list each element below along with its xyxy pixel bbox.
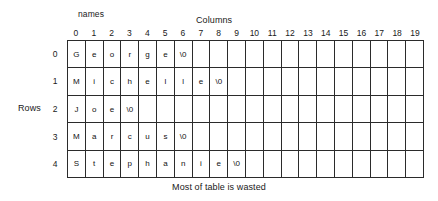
column-index-15: 15 [335, 27, 353, 39]
column-index-1: 1 [85, 27, 103, 39]
grid-cell-empty [210, 123, 228, 149]
column-index-19: 19 [406, 27, 424, 39]
grid-cell-char: e [157, 41, 175, 67]
grid-cell-empty [406, 41, 424, 67]
grid-cell-char: l [175, 68, 193, 94]
grid-cell-empty [406, 123, 424, 149]
column-index-16: 16 [353, 27, 371, 39]
column-index-10: 10 [245, 27, 263, 39]
grid-cell-empty [210, 41, 228, 67]
grid-cell-char: \0 [175, 123, 193, 149]
grid-cell-empty [353, 151, 371, 177]
grid-cell-char: t [86, 151, 104, 177]
grid-cell-char: c [121, 123, 139, 149]
grid-cell-empty [246, 151, 264, 177]
grid-cell-empty [388, 41, 406, 67]
column-index-8: 8 [210, 27, 228, 39]
grid-cell-char: p [121, 151, 139, 177]
grid-cell-empty [335, 123, 353, 149]
character-grid: George\0Michelle\0Joe\0Marcus\0Stephanie… [67, 40, 424, 178]
column-index-14: 14 [317, 27, 335, 39]
grid-cell-empty [406, 96, 424, 122]
column-index-4: 4 [138, 27, 156, 39]
grid-cell-char: r [104, 123, 122, 149]
column-index-18: 18 [388, 27, 406, 39]
grid-cell-empty [193, 41, 211, 67]
column-index-3: 3 [121, 27, 139, 39]
table-row: Michelle\0 [68, 68, 424, 95]
grid-cell-empty [299, 41, 317, 67]
table-row: Marcus\0 [68, 123, 424, 150]
grid-cell-empty [335, 68, 353, 94]
grid-cell-empty [353, 68, 371, 94]
grid-cell-empty [139, 96, 157, 122]
grid-cell-char: i [86, 68, 104, 94]
grid-cell-empty [317, 41, 335, 67]
grid-cell-empty [299, 151, 317, 177]
column-index-2: 2 [103, 27, 121, 39]
grid-cell-empty [317, 96, 335, 122]
grid-cell-empty [317, 151, 335, 177]
grid-cell-empty [353, 41, 371, 67]
grid-cell-char: n [175, 151, 193, 177]
grid-cell-empty [353, 96, 371, 122]
grid-cell-char: s [157, 123, 175, 149]
grid-cell-empty [317, 123, 335, 149]
grid-cell-empty [228, 41, 246, 67]
grid-cell-empty [246, 41, 264, 67]
table-row: Joe\0 [68, 96, 424, 123]
column-index-0: 0 [67, 27, 85, 39]
grid-cell-char: M [68, 123, 86, 149]
grid-cell-empty [371, 68, 389, 94]
grid-cell-char: G [68, 41, 86, 67]
grid-cell-empty [282, 68, 300, 94]
row-index-2: 2 [47, 95, 63, 123]
grid-cell-empty [246, 123, 264, 149]
table-row: Stephanie\0 [68, 151, 424, 178]
grid-cell-empty [299, 96, 317, 122]
grid-cell-empty [371, 96, 389, 122]
grid-cell-empty [282, 151, 300, 177]
grid-cell-char: \0 [228, 151, 246, 177]
grid-cell-char: h [121, 68, 139, 94]
grid-cell-empty [335, 151, 353, 177]
grid-cell-empty [228, 123, 246, 149]
grid-cell-char: a [86, 123, 104, 149]
grid-cell-char: e [104, 96, 122, 122]
grid-cell-char: r [121, 41, 139, 67]
figure-caption: Most of table is wasted [0, 182, 438, 192]
grid-cell-empty [335, 96, 353, 122]
grid-cell-empty [282, 123, 300, 149]
grid-cell-empty [264, 41, 282, 67]
grid-cell-empty [299, 123, 317, 149]
char-array-table-figure: names Columns Rows 012345678910111213141… [0, 0, 438, 201]
grid-cell-empty [157, 96, 175, 122]
grid-cell-char: \0 [175, 41, 193, 67]
row-index-1: 1 [47, 68, 63, 96]
column-index-11: 11 [263, 27, 281, 39]
grid-cell-empty [371, 151, 389, 177]
grid-cell-empty [193, 96, 211, 122]
column-index-13: 13 [299, 27, 317, 39]
columns-axis-label: Columns [196, 15, 232, 25]
grid-cell-empty [228, 68, 246, 94]
grid-cell-empty [264, 123, 282, 149]
grid-cell-empty [406, 68, 424, 94]
column-index-12: 12 [281, 27, 299, 39]
grid-cell-char: o [104, 41, 122, 67]
column-index-9: 9 [228, 27, 246, 39]
grid-cell-empty [317, 68, 335, 94]
grid-cell-empty [264, 96, 282, 122]
grid-cell-empty [299, 68, 317, 94]
grid-cell-char: o [86, 96, 104, 122]
grid-cell-char: e [139, 68, 157, 94]
grid-cell-empty [282, 96, 300, 122]
grid-cell-empty [371, 41, 389, 67]
grid-cell-empty [264, 68, 282, 94]
grid-cell-char: e [193, 68, 211, 94]
grid-cell-char: a [157, 151, 175, 177]
grid-cell-empty [388, 96, 406, 122]
rows-axis-label: Rows [18, 103, 41, 113]
grid-cell-char: i [193, 151, 211, 177]
column-index-7: 7 [192, 27, 210, 39]
